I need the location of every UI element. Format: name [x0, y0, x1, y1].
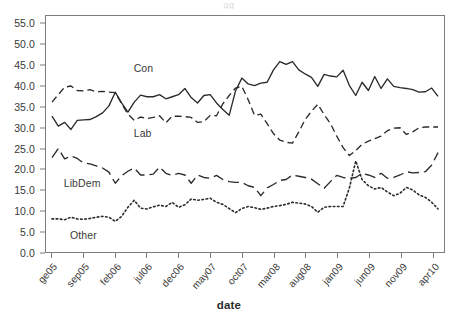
series-label-libdem: LibDem [64, 177, 101, 189]
y-tick-label: 15.0 [1, 184, 35, 196]
plot-area [45, 15, 445, 253]
y-tick-mark [40, 169, 45, 170]
y-tick-label: 35.0 [1, 101, 35, 113]
series-label-lab: Lab [134, 127, 152, 139]
series-line-libdem [52, 148, 438, 195]
y-tick-label: 20.0 [1, 163, 35, 175]
y-tick-mark [40, 85, 45, 86]
y-tick-mark [40, 65, 45, 66]
x-tick-mark [274, 253, 275, 258]
x-axis-title: date [0, 299, 458, 311]
y-tick-label: 30.0 [1, 122, 35, 134]
x-tick-mark [305, 253, 306, 258]
series-label-other: Other [70, 229, 97, 241]
x-tick-mark [337, 253, 338, 258]
y-tick-label: 50.0 [1, 38, 35, 50]
x-tick-mark [178, 253, 179, 258]
y-tick-mark [40, 253, 45, 254]
x-tick-mark [369, 253, 370, 258]
series-line-con [52, 62, 438, 130]
y-tick-label: 10.0 [1, 205, 35, 217]
y-tick-label: 45.0 [1, 59, 35, 71]
y-tick-mark [40, 106, 45, 107]
y-tick-mark [40, 190, 45, 191]
x-tick-mark [115, 253, 116, 258]
y-tick-mark [40, 232, 45, 233]
cropped-title-remnant: gg [0, 0, 458, 9]
series-label-con: Con [134, 62, 154, 74]
y-tick-mark [40, 148, 45, 149]
y-tick-label: 25.0 [1, 143, 35, 155]
chart-root: gg 0.05.010.015.020.025.030.035.040.045.… [0, 0, 458, 322]
y-tick-label: 55.0 [1, 17, 35, 29]
x-tick-mark [83, 253, 84, 258]
series-line-lab [52, 86, 438, 156]
x-tick-mark [210, 253, 211, 258]
x-tick-mark [146, 253, 147, 258]
y-tick-label: 0.0 [1, 247, 35, 259]
y-tick-mark [40, 44, 45, 45]
x-tick-mark [401, 253, 402, 258]
series-line-other [52, 161, 438, 221]
y-tick-label: 5.0 [1, 226, 35, 238]
x-tick-mark [242, 253, 243, 258]
y-tick-mark [40, 211, 45, 212]
y-tick-label: 40.0 [1, 80, 35, 92]
x-tick-mark [433, 253, 434, 258]
series-canvas [46, 16, 444, 252]
y-tick-mark [40, 127, 45, 128]
y-tick-mark [40, 23, 45, 24]
x-tick-mark [51, 253, 52, 258]
